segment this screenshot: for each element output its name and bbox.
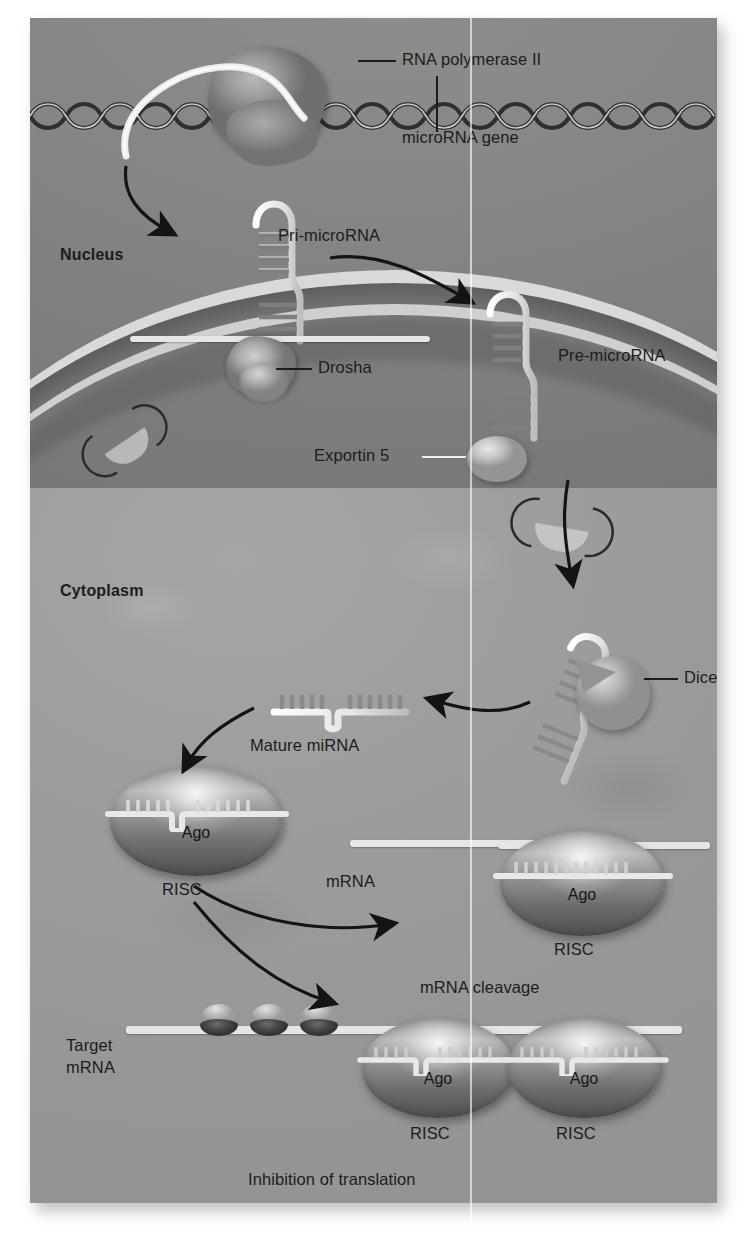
label-microrna-gene: microRNA gene <box>402 128 519 147</box>
label-risc-inhib-2: RISC <box>556 1124 596 1143</box>
label-exportin-5: Exportin 5 <box>314 446 389 465</box>
leader-rna-polymerase <box>358 60 396 62</box>
label-drosha: Drosha <box>318 358 372 377</box>
risc-complex-inhibition-2: Ago <box>508 1018 660 1118</box>
label-mrna: mRNA <box>326 872 375 891</box>
mature-mirna-duplex <box>266 682 416 738</box>
diagram-panel: Ago <box>30 18 717 1203</box>
ago-label-cleavage: Ago <box>500 886 664 904</box>
label-mature-mirna: Mature miRNA <box>250 736 359 755</box>
label-risc-loaded: RISC <box>162 880 202 899</box>
label-pre-microrna: Pre-microRNA <box>558 346 666 365</box>
ribosome-2 <box>250 1004 288 1038</box>
label-cytoplasm: Cytoplasm <box>60 582 144 601</box>
ago-label-inhib-2: Ago <box>508 1070 660 1088</box>
ribosome-small-subunit <box>300 1019 338 1036</box>
ago-label-inhib-1: Ago <box>362 1070 514 1088</box>
label-risc-cleavage: RISC <box>554 940 594 959</box>
risc-complex-loaded: Ago <box>110 766 282 876</box>
label-mrna-cleavage: mRNA cleavage <box>420 978 540 997</box>
nuclear-pore-complex-right <box>500 486 630 586</box>
label-dicer: Dicer <box>684 668 717 687</box>
risc-complex-inhibition-1: Ago <box>362 1018 514 1118</box>
label-target-mrna-line2: mRNA <box>66 1058 115 1077</box>
label-pri-microrna: Pri-microRNA <box>278 226 380 245</box>
scanner-artifact-line <box>470 0 472 1242</box>
label-inhibition-of-translation: Inhibition of translation <box>248 1170 416 1189</box>
ribosome-small-subunit <box>250 1019 288 1036</box>
leader-microrna-gene <box>436 76 438 132</box>
nascent-rna-transcript <box>90 38 360 168</box>
nuclear-pore-complex-left <box>74 398 194 494</box>
label-nucleus: Nucleus <box>60 246 124 265</box>
ago-label-1: Ago <box>110 824 282 842</box>
exportin-5-protein <box>467 436 527 482</box>
risc-complex-cleavage: Ago <box>500 830 664 936</box>
leader-dicer <box>644 678 678 680</box>
ribosome-1 <box>200 1004 238 1038</box>
figure-page: Ago <box>0 0 747 1242</box>
label-target-mrna-line1: Target <box>66 1036 112 1055</box>
leader-exportin5 <box>422 456 466 458</box>
leader-drosha <box>276 368 312 370</box>
label-risc-inhib-1: RISC <box>410 1124 450 1143</box>
ribosome-small-subunit <box>200 1019 238 1036</box>
ribosome-3 <box>300 1004 338 1038</box>
pre-microrna-hairpin <box>470 280 560 454</box>
